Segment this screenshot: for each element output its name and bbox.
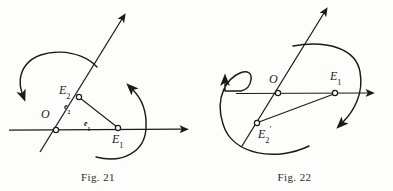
fig22-segment-e2p-e1	[259, 94, 334, 122]
fig22-oblique-axis	[242, 13, 324, 146]
fig21-label-e1-point: E1	[112, 133, 123, 149]
fig22-label-origin: O	[269, 73, 278, 85]
fig21-oblique-axis	[40, 19, 122, 152]
figure-22-panel: O E1 E2′ Fig. 22	[196, 0, 393, 191]
fig22-right-rotation-arrow	[293, 44, 361, 122]
fig22-horizontal-axis	[236, 93, 368, 94]
figure-22-drawing	[196, 0, 393, 191]
fig21-label-e2-vector: e2	[64, 103, 70, 113]
figure-page: O E1 E2 e1 e2 Fig. 21	[0, 0, 393, 191]
figure-22-caption: Fig. 22	[196, 171, 393, 183]
fig22-label-e1-point: E1	[330, 70, 341, 86]
fig22-label-e2-prime-point: E2′	[258, 126, 271, 144]
fig21-horizontal-axis	[9, 129, 182, 130]
fig21-label-origin: O	[41, 108, 50, 120]
fig21-point-E1	[115, 125, 120, 130]
fig21-point-E2	[76, 94, 81, 99]
fig22-point-O	[275, 90, 280, 95]
fig21-label-e1-vector: e1	[84, 120, 90, 130]
fig22-point-E1	[332, 90, 337, 95]
fig22-point-E2-prime	[254, 120, 259, 125]
figure-21-drawing	[0, 0, 196, 191]
fig21-point-O	[53, 127, 58, 132]
figure-21-caption: Fig. 21	[0, 171, 196, 183]
figure-21-panel: O E1 E2 e1 e2 Fig. 21	[0, 0, 196, 191]
fig21-label-e2-point: E2	[59, 84, 70, 100]
